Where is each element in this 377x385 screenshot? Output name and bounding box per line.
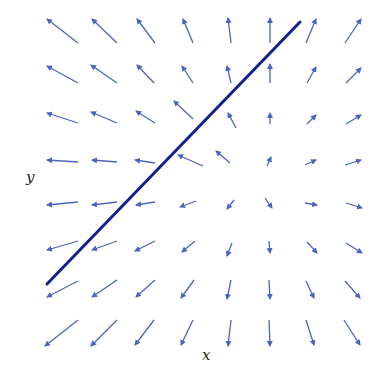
- vector-arrow: [91, 65, 117, 83]
- x-axis-label: x: [202, 346, 210, 364]
- vector-arrow: [306, 320, 314, 345]
- vector-arrow: [346, 243, 362, 253]
- vector-arrow: [92, 202, 117, 205]
- vector-arrow: [137, 65, 154, 83]
- vector-arrow: [228, 320, 231, 346]
- vector-arrow: [47, 66, 78, 83]
- vector-arrow: [47, 19, 78, 43]
- vector-arrow: [180, 201, 196, 207]
- vector-arrow: [136, 111, 155, 123]
- vector-arrow: [227, 243, 232, 256]
- vector-arrow: [306, 19, 316, 43]
- vector-arrow: [305, 203, 317, 205]
- vector-arrow: [227, 200, 234, 209]
- vector-arrow: [306, 281, 314, 298]
- vector-arrow: [47, 160, 78, 162]
- vector-arrow: [346, 68, 361, 83]
- vector-arrow: [182, 241, 195, 252]
- vector-arrow: [307, 115, 316, 124]
- vector-arrow: [345, 19, 361, 43]
- vector-arrow: [135, 160, 155, 163]
- vector-arrow: [92, 280, 117, 297]
- vector-field-plot: [0, 0, 377, 385]
- vector-arrow: [91, 112, 117, 123]
- vector-arrow: [47, 241, 78, 250]
- vector-arrow: [344, 320, 360, 345]
- vector-arrow: [307, 242, 317, 253]
- vector-arrow: [182, 66, 193, 83]
- vector-arrow: [183, 19, 193, 43]
- vector-arrow: [91, 320, 117, 346]
- vector-arrow: [92, 160, 117, 162]
- vector-arrow: [228, 18, 231, 43]
- vector-arrow: [181, 320, 193, 345]
- vector-arrow: [227, 66, 231, 83]
- vector-arrow: [346, 203, 362, 208]
- vector-arrow: [228, 113, 236, 128]
- vector-arrow: [45, 320, 78, 346]
- vector-arrow: [92, 19, 117, 43]
- vector-arrows: [45, 18, 362, 346]
- vector-arrow: [346, 115, 361, 124]
- vector-arrow: [265, 198, 272, 208]
- vector-arrow: [135, 320, 154, 345]
- vector-arrow: [345, 160, 361, 165]
- vector-arrow: [47, 281, 78, 297]
- vector-arrow: [92, 241, 117, 250]
- y-axis-label: y: [26, 168, 34, 186]
- vector-arrow: [47, 202, 78, 205]
- vector-arrow: [136, 202, 155, 205]
- vector-arrow: [269, 241, 270, 253]
- vector-arrow: [345, 281, 360, 298]
- vector-arrow: [267, 157, 271, 166]
- vector-arrow: [307, 67, 316, 83]
- vector-arrow: [47, 113, 78, 123]
- vector-arrow: [137, 19, 155, 43]
- vector-arrow: [181, 280, 194, 298]
- vector-arrow: [216, 151, 230, 163]
- vector-arrow: [178, 155, 203, 166]
- vector-arrow: [174, 101, 193, 119]
- separatrix-line: [47, 22, 300, 284]
- vector-arrow: [227, 280, 231, 299]
- vector-arrow: [305, 160, 316, 165]
- vector-arrow: [136, 280, 155, 297]
- vector-arrow: [135, 241, 155, 251]
- vector-arrow: [269, 280, 270, 299]
- vector-arrow: [269, 320, 270, 346]
